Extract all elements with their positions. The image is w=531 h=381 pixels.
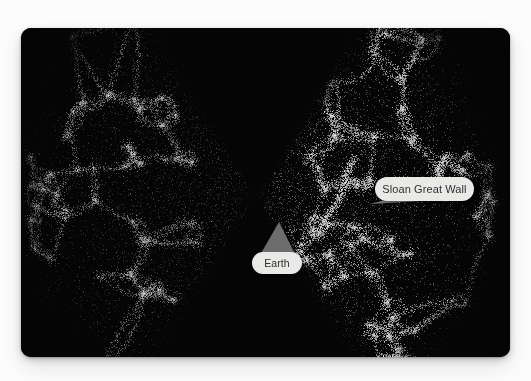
annotation-earth-label: Earth	[264, 258, 290, 269]
annotation-sloan-great-wall[interactable]: Sloan Great Wall	[375, 177, 474, 201]
annotation-sloan-great-wall-label: Sloan Great Wall	[382, 184, 466, 195]
figure-stage: Earth Sloan Great Wall	[0, 0, 531, 381]
annotation-earth[interactable]: Earth	[252, 252, 302, 274]
sky-survey-panel: Earth Sloan Great Wall	[21, 28, 510, 357]
